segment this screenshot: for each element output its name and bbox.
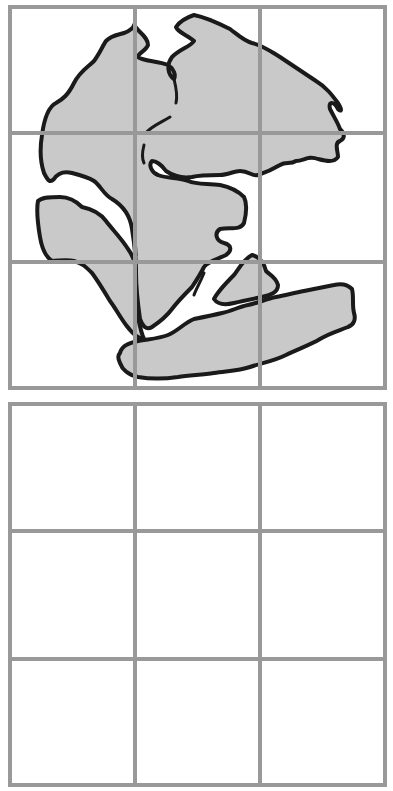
empty-grid [8, 402, 388, 790]
pangaea-map [8, 5, 388, 391]
empty-grid-panel [8, 402, 388, 790]
landmass [37, 15, 355, 379]
map-grid-panel [8, 5, 388, 391]
rift-line [143, 145, 145, 163]
grid-overlay [10, 404, 385, 785]
grid-border [10, 404, 385, 785]
laurasia-landmass [41, 15, 344, 328]
